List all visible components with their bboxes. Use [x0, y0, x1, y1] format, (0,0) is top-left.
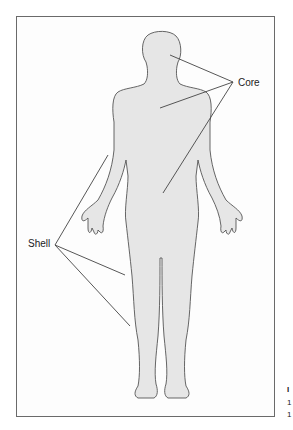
core-label: Core [238, 77, 260, 88]
body-silhouette [82, 31, 242, 398]
shell-label: Shell [28, 238, 50, 249]
caption-fragment: I [287, 384, 289, 396]
caption-fragment: 1 [287, 397, 291, 409]
caption-fragment: 1 [287, 409, 291, 421]
human-body-illustration [0, 0, 293, 430]
